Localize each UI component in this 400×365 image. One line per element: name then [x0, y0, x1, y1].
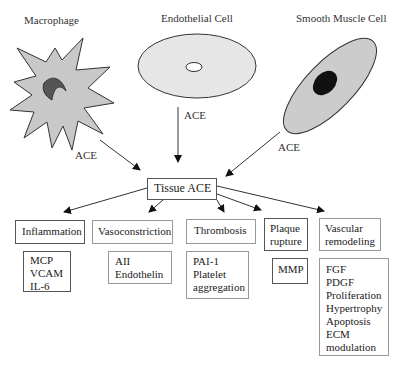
- detail-vcam: VCAM: [30, 267, 64, 280]
- thrombosis-details-box: PAI-1 Platelet aggregation: [186, 251, 249, 299]
- detail-hypertrophy: Hypertrophy: [326, 302, 382, 315]
- detail-endothelin: Endothelin: [115, 268, 165, 281]
- inflammation-box: Inflammation: [15, 220, 85, 244]
- endothelial-cell-icon: [138, 34, 256, 98]
- detail-il6: IL-6: [30, 280, 64, 293]
- arrow-to-vascular-remodeling: [217, 186, 324, 211]
- vascular-remodeling-label-line-1: Vascular: [325, 222, 375, 235]
- tissue-ace-label: Tissue ACE: [154, 182, 210, 195]
- ace-label-endothelial: ACE: [184, 109, 206, 121]
- detail-mmp: MMP: [278, 263, 302, 276]
- macrophage-cell-icon: [10, 38, 114, 150]
- arrow-smooth-muscle-to-tissue-ace: [226, 132, 280, 176]
- arrow-to-thrombosis: [217, 200, 224, 212]
- smooth-muscle-cell-icon: [270, 25, 391, 148]
- detail-aggregation: aggregation: [193, 281, 242, 294]
- inflammation-label: Inflammation: [22, 225, 78, 238]
- detail-aii: AII: [115, 255, 165, 268]
- detail-pai1: PAI-1: [193, 255, 242, 268]
- detail-mcp: MCP: [30, 254, 64, 267]
- detail-platelet: Platelet: [193, 268, 242, 281]
- vasoconstriction-box: Vasoconstriction: [92, 220, 173, 244]
- inflammation-details-box: MCP VCAM IL-6: [23, 251, 71, 292]
- endothelial-label: Endothelial Cell: [161, 12, 233, 24]
- detail-apoptosis: Apoptosis: [326, 315, 382, 328]
- vascular-remodeling-box: Vascular remodeling: [319, 218, 381, 251]
- thrombosis-label: Thrombosis: [194, 224, 248, 237]
- arrow-macrophage-to-tissue-ace: [100, 140, 140, 170]
- tissue-ace-box: Tissue ACE: [147, 178, 217, 200]
- ace-diagram: Macrophage Endothelial Cell Smooth Muscl…: [0, 0, 400, 365]
- plaque-rupture-label-line-2: rupture: [270, 235, 302, 248]
- plaque-rupture-box: Plaque rupture: [264, 218, 308, 251]
- macrophage-label: Macrophage: [24, 14, 79, 26]
- detail-ecm: ECM: [326, 328, 382, 341]
- thrombosis-box: Thrombosis: [186, 219, 256, 244]
- detail-fgf: FGF: [326, 263, 382, 276]
- vascular-remodeling-details-box: FGF PDGF Proliferation Hypertrophy Apopt…: [319, 258, 389, 356]
- vasoconstriction-details-box: AII Endothelin: [108, 251, 172, 284]
- detail-proliferation: Proliferation: [326, 289, 382, 302]
- plaque-rupture-label-line-1: Plaque: [270, 222, 302, 235]
- arrow-to-vasoconstriction: [149, 200, 163, 212]
- arrow-to-plaque-rupture: [217, 194, 261, 210]
- smooth-muscle-label: Smooth Muscle Cell: [296, 12, 386, 24]
- detail-pdgf: PDGF: [326, 276, 382, 289]
- ace-label-smooth-muscle: ACE: [278, 141, 300, 153]
- vascular-remodeling-label-line-2: remodeling: [325, 235, 375, 248]
- arrow-to-inflammation: [64, 188, 147, 212]
- ace-label-macrophage: ACE: [75, 149, 97, 161]
- vasoconstriction-label: Vasoconstriction: [98, 225, 167, 238]
- detail-modulation: modulation: [326, 341, 382, 354]
- plaque-rupture-details-box: MMP: [272, 258, 308, 284]
